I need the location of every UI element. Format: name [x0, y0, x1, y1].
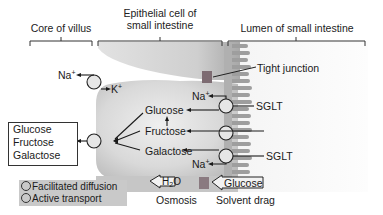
- na-pump-label: Na+: [58, 69, 76, 81]
- absorbed-glucose: Glucose: [9, 123, 77, 136]
- header-lumen: Lumen of small intestine: [232, 22, 362, 34]
- circle-icon: [21, 193, 31, 203]
- absorbed-fructose: Fructose: [9, 136, 77, 149]
- k-pump-label: K+: [111, 83, 122, 95]
- circle-icon: [21, 181, 31, 191]
- na-top-label: Na+: [192, 90, 210, 102]
- solvent-drag-label: Solvent drag: [216, 194, 275, 206]
- upper-cell: [98, 42, 240, 80]
- transport-key: Facilitated diffusion Active transport: [19, 180, 127, 206]
- sglt-bottom-label: SGLT: [266, 150, 293, 162]
- glucose-drag-label: Glucose: [224, 177, 263, 189]
- fructose-label: Fructose: [145, 125, 186, 137]
- sglt-top-label: SGLT: [256, 100, 283, 112]
- osmosis-label: Osmosis: [156, 194, 197, 206]
- key-active-transport: Active transport: [21, 193, 101, 205]
- galactose-label: Galactose: [145, 145, 192, 157]
- tight-junction-label: Tight junction: [257, 62, 319, 74]
- sugar-absorption-diagram: Core of villus Epithelial cell of small …: [0, 0, 383, 215]
- tight-junction: [202, 71, 212, 83]
- na-bottom-label: Na+: [192, 158, 210, 170]
- header-epithelial-line1: Epithelial cell of: [112, 7, 208, 19]
- header-core-of-villus: Core of villus: [24, 22, 98, 34]
- lower-tight-junction: [199, 177, 209, 189]
- glucose-label: Glucose: [145, 104, 184, 116]
- absorbed-sugars-box: Glucose Fructose Galactose: [8, 122, 78, 166]
- key-facilitated-diffusion: Facilitated diffusion: [21, 181, 117, 193]
- absorbed-galactose: Galactose: [9, 149, 77, 162]
- water-label: H2O: [162, 176, 181, 188]
- header-epithelial-line2: small intestine: [112, 19, 208, 31]
